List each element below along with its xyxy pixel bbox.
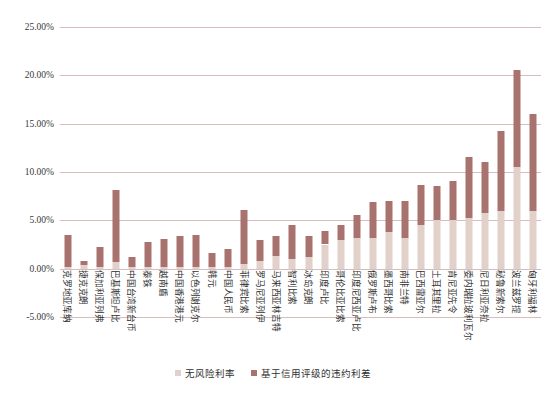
bar-segment-default-spread[interactable] xyxy=(465,157,472,219)
bar-segment-risk-free-rate[interactable] xyxy=(97,267,104,269)
bar-segment-risk-free-rate[interactable] xyxy=(385,232,392,269)
bar-segment-risk-free-rate[interactable] xyxy=(225,267,232,269)
x-axis-tick-label: 尼日利亚奈拉 xyxy=(479,270,488,323)
bar-segment-default-spread[interactable] xyxy=(337,225,344,240)
bar-segment-default-spread[interactable] xyxy=(353,215,360,238)
x-axis-tick-label: 委内瑞拉玻利瓦尔 xyxy=(463,270,472,340)
bar-segment-default-spread[interactable] xyxy=(385,201,392,232)
bar-segment-risk-free-rate[interactable] xyxy=(337,240,344,269)
x-axis-tick-label: 巴基斯坦卢比 xyxy=(111,270,120,323)
legend-label: 基于信用评级的违约利差 xyxy=(261,366,371,380)
bar-segment-default-spread[interactable] xyxy=(177,236,184,267)
x-axis-tick-label: 冰岛克朗 xyxy=(303,270,312,305)
x-axis-tick-label: 罗马尼亚列伊 xyxy=(255,270,264,323)
y-axis-tick-label: 0.00% xyxy=(29,264,54,274)
bar-segment-default-spread[interactable] xyxy=(241,210,248,264)
x-axis-tick-label: 南非兰特 xyxy=(399,270,408,305)
x-axis-tick-label: 土耳其里拉 xyxy=(431,270,440,314)
x-axis-tick-label: 巴西雷亚尔 xyxy=(415,270,424,314)
bar-segment-risk-free-rate[interactable] xyxy=(177,267,184,269)
bar-segment-default-spread[interactable] xyxy=(529,114,536,211)
x-axis-tick-label: 印度尼西亚卢比 xyxy=(351,270,360,332)
bar-segment-risk-free-rate[interactable] xyxy=(209,267,216,269)
x-axis-tick-label: 越南盾 xyxy=(159,270,168,296)
bar-segment-default-spread[interactable] xyxy=(273,236,280,256)
x-axis-tick-label: 俄罗斯卢布 xyxy=(367,270,376,314)
bar-segment-default-spread[interactable] xyxy=(113,190,120,262)
bar-segment-risk-free-rate[interactable] xyxy=(353,238,360,269)
bar-segment-risk-free-rate[interactable] xyxy=(273,256,280,269)
bar-segment-default-spread[interactable] xyxy=(225,249,232,266)
bar-segment-default-spread[interactable] xyxy=(417,185,424,226)
x-axis-tick-label: 韩元 xyxy=(207,270,216,288)
x-axis-tick-label: 以色列谢克尔 xyxy=(191,270,200,323)
x-axis-tick-label: 印度卢比 xyxy=(319,270,328,305)
bar-segment-risk-free-rate[interactable] xyxy=(321,245,328,269)
bar-segment-default-spread[interactable] xyxy=(193,235,200,267)
bar-segment-default-spread[interactable] xyxy=(401,201,408,238)
bar-segment-default-spread[interactable] xyxy=(369,202,376,238)
bar-segment-risk-free-rate[interactable] xyxy=(289,259,296,269)
bar-segment-risk-free-rate[interactable] xyxy=(113,262,120,269)
y-axis-tick-label: 5.00% xyxy=(29,215,54,225)
bar-segment-default-spread[interactable] xyxy=(161,239,168,267)
bar-segment-risk-free-rate[interactable] xyxy=(193,267,200,269)
bar-segment-default-spread[interactable] xyxy=(449,181,456,221)
bar-segment-default-spread[interactable] xyxy=(481,162,488,212)
bar-segment-risk-free-rate[interactable] xyxy=(257,261,264,269)
x-axis-tick-label: 中国香港港元 xyxy=(175,270,184,323)
chart-container: 25.00%20.00%15.00%10.00%5.00%0.00%-5.00%… xyxy=(0,0,546,393)
y-axis-tick-label: 25.00% xyxy=(25,22,54,32)
x-axis-tick-label: 中国人民币 xyxy=(223,270,232,314)
bar-segment-default-spread[interactable] xyxy=(497,131,504,210)
bar-segment-risk-free-rate[interactable] xyxy=(417,225,424,269)
bar-segment-risk-free-rate[interactable] xyxy=(433,220,440,268)
bar-segment-risk-free-rate[interactable] xyxy=(401,238,408,269)
legend-label: 无风险利率 xyxy=(185,366,235,380)
bar-segment-risk-free-rate[interactable] xyxy=(81,265,88,269)
bar-segment-default-spread[interactable] xyxy=(209,253,216,267)
x-axis-tick-label: 保加利亚列弗 xyxy=(95,270,104,323)
bar-segment-default-spread[interactable] xyxy=(97,247,104,266)
x-axis-tick-label: 智利比索 xyxy=(287,270,296,305)
bar-segment-risk-free-rate[interactable] xyxy=(145,267,152,269)
x-axis-tick-label: 泰铢 xyxy=(143,270,152,288)
bar-segment-default-spread[interactable] xyxy=(289,225,296,259)
y-axis-tick-label: 20.00% xyxy=(25,70,54,80)
bar-segment-default-spread[interactable] xyxy=(321,231,328,245)
bar-segment-default-spread[interactable] xyxy=(65,235,72,267)
x-axis-tick-label: 哥伦比亚比索 xyxy=(335,270,344,323)
bar-segment-default-spread[interactable] xyxy=(145,242,152,267)
bar-segment-risk-free-rate[interactable] xyxy=(129,267,136,269)
bar-segment-risk-free-rate[interactable] xyxy=(241,264,248,269)
x-axis-tick-label: 马来西亚林吉特 xyxy=(271,270,280,332)
chart-legend: 无风险利率基于信用评级的违约利差 xyxy=(0,366,546,380)
x-axis-tick-label: 中国台湾新台币 xyxy=(127,270,136,332)
x-axis-tick-label: 捷克克朗 xyxy=(79,270,88,305)
bar-segment-risk-free-rate[interactable] xyxy=(465,218,472,268)
bar-segment-risk-free-rate[interactable] xyxy=(161,267,168,269)
bar-segment-default-spread[interactable] xyxy=(305,236,312,257)
bar-segment-risk-free-rate[interactable] xyxy=(497,211,504,269)
bar-segment-default-spread[interactable] xyxy=(129,257,136,267)
legend-item[interactable]: 基于信用评级的违约利差 xyxy=(251,366,371,380)
bar-segment-risk-free-rate[interactable] xyxy=(65,267,72,269)
bar-segment-risk-free-rate[interactable] xyxy=(305,257,312,269)
y-axis-labels: 25.00%20.00%15.00%10.00%5.00%0.00%-5.00% xyxy=(0,27,60,317)
bar-segment-risk-free-rate[interactable] xyxy=(513,167,520,269)
bar-segment-risk-free-rate[interactable] xyxy=(481,213,488,269)
legend-item[interactable]: 无风险利率 xyxy=(175,366,235,380)
x-axis-tick-label: 菲律宾比索 xyxy=(239,270,248,314)
legend-swatch-icon xyxy=(251,370,257,376)
bar-segment-risk-free-rate[interactable] xyxy=(529,211,536,269)
bar-segment-risk-free-rate[interactable] xyxy=(369,238,376,269)
bar-segment-default-spread[interactable] xyxy=(513,70,520,168)
x-axis-tick-label: 波兰兹罗提 xyxy=(512,270,521,314)
y-axis-tick-label: 10.00% xyxy=(25,167,54,177)
bar-segment-risk-free-rate[interactable] xyxy=(449,220,456,268)
bar-segment-default-spread[interactable] xyxy=(257,240,264,261)
x-axis-tick-label: 秘鲁新索尔 xyxy=(496,270,505,314)
bar-segment-default-spread[interactable] xyxy=(433,186,440,221)
y-axis-tick-label: -5.00% xyxy=(26,312,54,322)
x-axis-tick-label: 墨西哥比索 xyxy=(383,270,392,314)
